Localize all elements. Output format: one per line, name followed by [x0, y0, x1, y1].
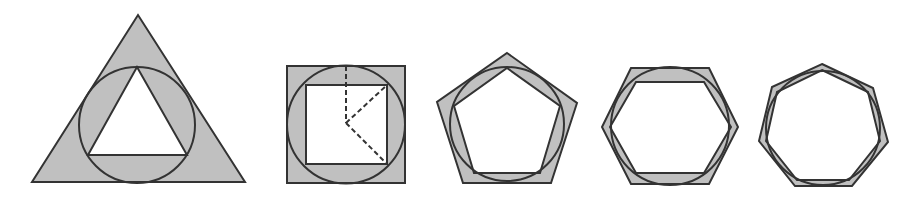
figure-square — [287, 66, 405, 184]
diagram-canvas — [0, 0, 916, 205]
figure-hexagon — [602, 67, 738, 185]
inner-hexagon — [610, 82, 731, 173]
polygon-approximation-diagram — [0, 0, 916, 205]
figure-pentagon — [437, 53, 577, 183]
figure-heptagon — [759, 64, 888, 186]
figure-triangle — [32, 15, 245, 183]
